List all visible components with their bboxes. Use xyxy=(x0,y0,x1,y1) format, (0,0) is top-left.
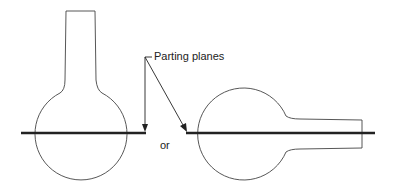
or-label: or xyxy=(160,139,170,151)
diagram-canvas: Parting planes or xyxy=(0,0,394,190)
arrowhead-diagonal xyxy=(180,123,187,132)
parting-planes-label: Parting planes xyxy=(154,50,224,62)
arrowhead-down xyxy=(142,124,148,132)
parting-plane-diagram xyxy=(0,0,394,190)
left-part-outline xyxy=(35,11,127,180)
leader-line-diagonal xyxy=(145,57,183,125)
